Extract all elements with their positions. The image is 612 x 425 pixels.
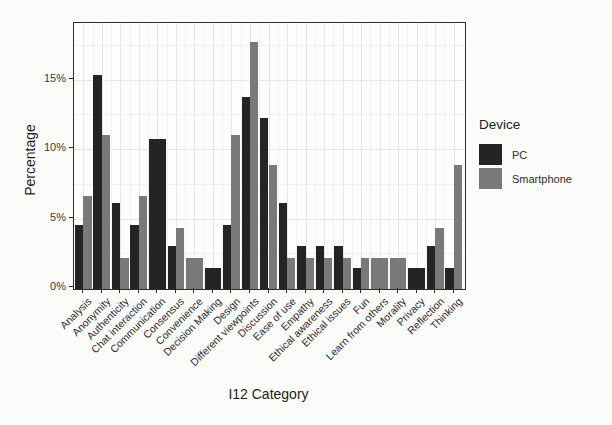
bar-smartphone-ease-of-use bbox=[287, 258, 295, 289]
bar-pc-decision-making bbox=[205, 268, 222, 289]
bar-smartphone-analysis bbox=[83, 196, 91, 289]
bar-smartphone-learn-from-others bbox=[371, 258, 388, 289]
y-tick-mark bbox=[69, 286, 73, 287]
y-axis-title: Percentage bbox=[22, 124, 38, 196]
bar-pc-ethical-awareness bbox=[316, 246, 324, 289]
bar-pc-analysis bbox=[75, 225, 83, 289]
bar-pc-design bbox=[223, 225, 231, 289]
x-tick-mark bbox=[323, 288, 324, 293]
bar-pc-thinking bbox=[445, 268, 453, 289]
bar-smartphone-convenience bbox=[186, 258, 203, 289]
bar-smartphone-morality bbox=[390, 258, 407, 289]
y-tick-label-15: 15% bbox=[26, 73, 66, 84]
bar-smartphone-design bbox=[231, 135, 239, 289]
x-tick-mark bbox=[360, 288, 361, 293]
x-tick-mark bbox=[156, 288, 157, 293]
minor-gridline-v bbox=[407, 23, 408, 289]
legend-swatch-smartphone bbox=[479, 168, 502, 189]
bar-pc-reflection bbox=[427, 246, 435, 289]
bar-pc-ease-of-use bbox=[279, 203, 287, 289]
major-gridline-v bbox=[306, 23, 307, 289]
bar-pc-anonymity bbox=[93, 75, 101, 289]
bar-smartphone-reflection bbox=[435, 228, 443, 289]
minor-gridline-v bbox=[352, 23, 353, 289]
bar-smartphone-different-viewpoints bbox=[250, 42, 258, 289]
x-tick-mark bbox=[453, 288, 454, 293]
bar-smartphone-ethical-issues bbox=[343, 258, 351, 289]
y-tick-mark bbox=[69, 78, 73, 79]
bar-smartphone-ethical-awareness bbox=[324, 258, 332, 289]
minor-gridline-v bbox=[370, 23, 371, 289]
x-axis-title: I12 Category bbox=[73, 386, 464, 402]
bar-chart-figure: Percentage 0%5%10%15%AnalysisAnonymityAu… bbox=[0, 0, 612, 425]
bar-smartphone-discussion bbox=[269, 165, 277, 289]
x-tick-mark bbox=[119, 288, 120, 293]
legend: Device PC Smartphone bbox=[479, 117, 572, 192]
minor-gridline-v bbox=[389, 23, 390, 289]
legend-title: Device bbox=[479, 117, 572, 132]
bar-pc-privacy bbox=[408, 268, 425, 289]
major-gridline-h bbox=[74, 80, 465, 81]
bar-pc-different-viewpoints bbox=[242, 97, 250, 289]
major-gridline-v bbox=[213, 23, 214, 289]
y-tick-label-5: 5% bbox=[26, 212, 66, 223]
minor-gridline-v bbox=[185, 23, 186, 289]
x-tick-mark bbox=[212, 288, 213, 293]
minor-gridline-v bbox=[444, 23, 445, 289]
x-tick-mark bbox=[175, 288, 176, 293]
bar-pc-ethical-issues bbox=[334, 246, 342, 289]
x-tick-mark bbox=[342, 288, 343, 293]
x-tick-mark bbox=[82, 288, 83, 293]
legend-label-smartphone: Smartphone bbox=[512, 173, 572, 185]
y-tick-mark bbox=[69, 147, 73, 148]
bar-pc-consensus bbox=[168, 246, 176, 289]
bar-smartphone-empathy bbox=[306, 258, 314, 289]
bar-pc-authenticity bbox=[112, 203, 120, 289]
bar-pc-empathy bbox=[297, 246, 305, 289]
major-gridline-v bbox=[417, 23, 418, 289]
major-gridline-v bbox=[194, 23, 195, 289]
x-tick-mark bbox=[101, 288, 102, 293]
major-gridline-v bbox=[343, 23, 344, 289]
bar-smartphone-consensus bbox=[176, 228, 184, 289]
bar-smartphone-anonymity bbox=[102, 135, 110, 289]
plot-panel bbox=[73, 22, 466, 290]
major-gridline-v bbox=[398, 23, 399, 289]
bar-smartphone-thinking bbox=[454, 165, 462, 289]
bar-pc-fun bbox=[353, 268, 361, 289]
x-tick-mark bbox=[193, 288, 194, 293]
y-tick-label-0: 0% bbox=[26, 281, 66, 292]
major-gridline-h bbox=[74, 149, 465, 150]
major-gridline-v bbox=[380, 23, 381, 289]
major-gridline-v bbox=[361, 23, 362, 289]
x-tick-mark bbox=[286, 288, 287, 293]
bar-pc-chat-interaction bbox=[130, 225, 138, 289]
legend-item-smartphone: Smartphone bbox=[479, 168, 572, 189]
x-tick-mark bbox=[416, 288, 417, 293]
bar-pc-discussion bbox=[260, 118, 268, 289]
legend-item-pc: PC bbox=[479, 144, 572, 165]
x-tick-mark bbox=[434, 288, 435, 293]
bar-smartphone-chat-interaction bbox=[139, 196, 147, 289]
x-tick-mark bbox=[249, 288, 250, 293]
legend-swatch-pc bbox=[479, 144, 502, 165]
x-tick-mark bbox=[138, 288, 139, 293]
minor-gridline-h bbox=[74, 45, 465, 46]
legend-label-pc: PC bbox=[512, 149, 527, 161]
major-gridline-v bbox=[120, 23, 121, 289]
x-tick-mark bbox=[379, 288, 380, 293]
x-tick-mark bbox=[397, 288, 398, 293]
major-gridline-v bbox=[324, 23, 325, 289]
x-tick-mark bbox=[305, 288, 306, 293]
minor-gridline-h bbox=[74, 114, 465, 115]
bar-smartphone-authenticity bbox=[120, 258, 128, 289]
y-tick-mark bbox=[69, 217, 73, 218]
x-tick-mark bbox=[268, 288, 269, 293]
major-gridline-v bbox=[287, 23, 288, 289]
bar-pc-communication bbox=[149, 139, 166, 289]
minor-gridline-v bbox=[204, 23, 205, 289]
bar-smartphone-fun bbox=[361, 258, 369, 289]
y-tick-label-10: 10% bbox=[26, 142, 66, 153]
x-tick-mark bbox=[230, 288, 231, 293]
